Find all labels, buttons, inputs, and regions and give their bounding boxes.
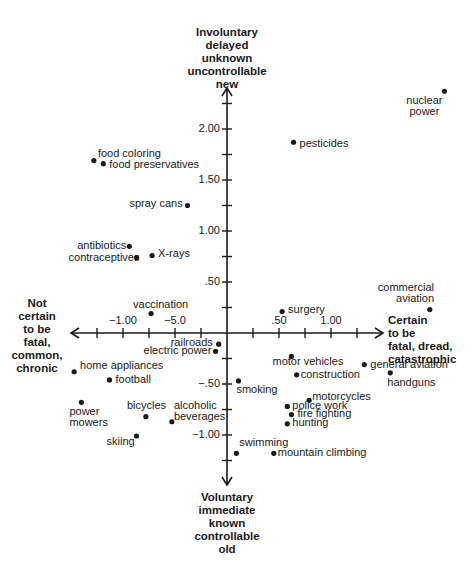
x-tick-label: .50 bbox=[263, 314, 295, 326]
pole-right-line: to be bbox=[388, 327, 472, 340]
point-label: hunting bbox=[292, 417, 328, 428]
pole-bottom-line: old bbox=[175, 543, 279, 556]
point-label-line: contraceptives bbox=[69, 252, 140, 263]
data-point bbox=[127, 244, 132, 249]
point-label: home appliances bbox=[80, 360, 163, 371]
data-point bbox=[101, 161, 106, 166]
point-label-line: food preservatives bbox=[109, 159, 199, 170]
point-label: general aviation bbox=[370, 359, 448, 370]
point-label-line: home appliances bbox=[80, 360, 163, 371]
pole-bottom-label: Voluntary immediate known controllable o… bbox=[175, 491, 279, 556]
point-label-line: electric power bbox=[144, 345, 212, 356]
point-label-line: hunting bbox=[292, 417, 328, 428]
point-label-line: vaccination bbox=[133, 299, 188, 310]
pole-top-line: new bbox=[175, 78, 279, 91]
point-label-line: surgery bbox=[288, 304, 325, 315]
point-label-line: power bbox=[406, 106, 442, 117]
data-point bbox=[291, 140, 296, 145]
point-label-line: spray cans bbox=[129, 198, 182, 209]
pole-bottom-line: Voluntary bbox=[175, 491, 279, 504]
point-label: football bbox=[115, 374, 150, 385]
point-label-line: construction bbox=[301, 369, 360, 380]
point-label-line: pesticides bbox=[300, 138, 349, 149]
point-label-line: skiing bbox=[107, 436, 135, 447]
data-point bbox=[442, 89, 447, 94]
point-label: bicycles bbox=[127, 400, 166, 411]
point-label: mountain climbing bbox=[278, 447, 367, 458]
data-point bbox=[72, 369, 77, 374]
pole-left-line: common, bbox=[4, 349, 70, 362]
pole-bottom-line: immediate bbox=[175, 504, 279, 517]
point-label-line: food coloring bbox=[98, 148, 161, 159]
point-label: powermowers bbox=[69, 406, 108, 428]
point-label: spray cans bbox=[129, 198, 182, 209]
data-point bbox=[79, 400, 84, 405]
point-label: contraceptives bbox=[69, 252, 140, 263]
point-label-line: beverages bbox=[174, 411, 225, 422]
data-point bbox=[150, 253, 155, 258]
pole-top-label: Involuntary delayed unknown uncontrollab… bbox=[175, 26, 279, 91]
point-label-line: football bbox=[115, 374, 150, 385]
y-tick-label: 2.00 bbox=[181, 122, 220, 134]
pole-bottom-line: known bbox=[175, 517, 279, 530]
pole-left-line: to be bbox=[4, 323, 70, 336]
pole-right-line: Certain bbox=[388, 314, 472, 327]
point-label-line: general aviation bbox=[370, 359, 448, 370]
data-point bbox=[91, 158, 96, 163]
point-label: antibiotics bbox=[77, 240, 126, 251]
data-point bbox=[134, 433, 139, 438]
data-point bbox=[185, 203, 190, 208]
point-label-line: mowers bbox=[69, 417, 108, 428]
point-label: vaccination bbox=[133, 299, 188, 310]
point-label: food preservatives bbox=[109, 159, 199, 170]
data-point bbox=[285, 404, 290, 409]
point-label-line: smoking bbox=[236, 384, 277, 395]
data-point bbox=[285, 421, 290, 426]
point-label: surgery bbox=[288, 304, 325, 315]
risk-perception-chart: Involuntary delayed unknown uncontrollab… bbox=[0, 0, 472, 569]
point-label: construction bbox=[301, 369, 360, 380]
point-label-line: antibiotics bbox=[77, 240, 126, 251]
point-label: motor vehicles bbox=[272, 356, 343, 367]
point-label: commercialaviation bbox=[378, 282, 434, 304]
y-tick-label: −.50 bbox=[181, 377, 220, 389]
x-tick-label: 1.00 bbox=[315, 314, 347, 326]
point-label: handguns bbox=[387, 377, 435, 388]
point-label-line: commercial bbox=[378, 282, 434, 293]
point-label-line: mountain climbing bbox=[278, 447, 367, 458]
y-tick-label: −1.00 bbox=[181, 428, 220, 440]
point-label: food coloring bbox=[98, 148, 161, 159]
pole-right-line: fatal, dread, bbox=[388, 340, 472, 353]
point-label-line: X-rays bbox=[158, 248, 190, 259]
data-point bbox=[294, 372, 299, 377]
data-point bbox=[388, 370, 393, 375]
pole-left-line: Not bbox=[4, 297, 70, 310]
pole-top-line: uncontrollable bbox=[175, 65, 279, 78]
x-tick-label: −5.0 bbox=[159, 314, 191, 326]
y-tick-label: 1.00 bbox=[181, 224, 220, 236]
point-label: smoking bbox=[236, 384, 277, 395]
data-point bbox=[213, 349, 218, 354]
point-label: X-rays bbox=[158, 248, 190, 259]
point-label: alcoholicbeverages bbox=[174, 400, 225, 422]
y-tick-label: 1.50 bbox=[181, 173, 220, 185]
pole-top-line: unknown bbox=[175, 52, 279, 65]
pole-left-line: certain bbox=[4, 310, 70, 323]
data-point bbox=[427, 307, 432, 312]
pole-left-line: chronic bbox=[4, 362, 70, 375]
pole-top-line: delayed bbox=[175, 39, 279, 52]
point-label-line: handguns bbox=[387, 377, 435, 388]
point-label: skiing bbox=[107, 436, 135, 447]
point-label: pesticides bbox=[300, 138, 349, 149]
data-point bbox=[234, 451, 239, 456]
pole-left-label: Not certain to be fatal, common, chronic bbox=[4, 297, 70, 375]
point-label: nuclearpower bbox=[406, 95, 442, 117]
pole-left-line: fatal, bbox=[4, 336, 70, 349]
pole-top-line: Involuntary bbox=[175, 26, 279, 39]
point-label-line: aviation bbox=[378, 293, 434, 304]
data-point bbox=[271, 451, 276, 456]
data-point bbox=[148, 311, 153, 316]
data-point bbox=[216, 342, 221, 347]
point-label-line: bicycles bbox=[127, 400, 166, 411]
y-tick-label: .50 bbox=[181, 275, 220, 287]
